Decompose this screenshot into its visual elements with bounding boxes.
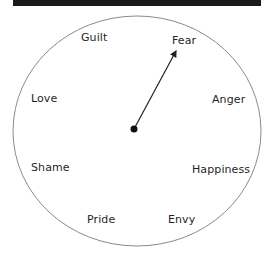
label-happiness: Happiness: [192, 163, 250, 176]
label-love: Love: [31, 92, 57, 105]
label-anger: Anger: [212, 93, 245, 106]
emotion-dial: [0, 0, 268, 255]
needle-arrow: [134, 51, 176, 129]
needle-pivot: [131, 126, 138, 133]
label-shame: Shame: [31, 161, 70, 174]
label-fear: Fear: [172, 34, 196, 47]
label-guilt: Guilt: [81, 31, 107, 44]
dial-circle: [13, 16, 261, 246]
label-pride: Pride: [87, 213, 115, 226]
label-envy: Envy: [168, 213, 195, 226]
